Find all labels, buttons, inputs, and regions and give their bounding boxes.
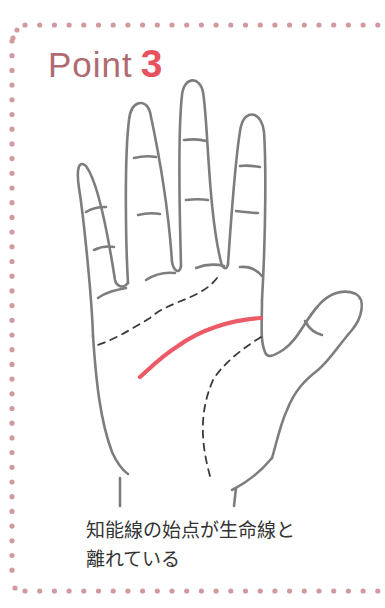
caption-line-1: 知能線の始点が生命線と <box>86 516 295 545</box>
caption: 知能線の始点が生命線と 離れている <box>86 516 295 574</box>
index-joint-upper <box>184 139 206 141</box>
base-crease-4 <box>240 267 262 276</box>
thumb-joint <box>305 321 322 335</box>
base-crease-3 <box>196 265 224 268</box>
dashed-palm-lines <box>94 278 261 476</box>
head-line-highlight <box>140 318 261 377</box>
palm-left-edge <box>78 164 128 336</box>
palm-lower-left <box>93 336 128 474</box>
base-crease-2 <box>146 273 175 280</box>
middle-joint-lower <box>138 213 160 215</box>
middle-joint-upper <box>134 156 156 158</box>
ring-finger <box>126 103 181 283</box>
palm-right-edge <box>262 292 362 458</box>
point-card: Point 3 <box>0 0 385 608</box>
little-joint-upper <box>240 166 260 167</box>
life-line <box>203 337 261 476</box>
middle-finger <box>179 80 228 268</box>
wrist-right-curve <box>232 458 272 490</box>
caption-line-2: 離れている <box>86 545 295 574</box>
hand-outline <box>78 80 362 506</box>
wrist-right <box>234 488 236 506</box>
little-joint-lower <box>236 211 258 213</box>
index-joint-lower <box>186 199 208 200</box>
base-crease-1 <box>98 288 126 298</box>
